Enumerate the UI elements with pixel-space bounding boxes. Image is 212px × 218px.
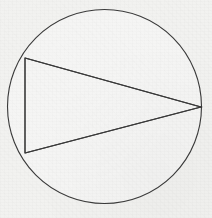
circumscribed-circle	[8, 10, 202, 204]
geometry-figure-canvas	[0, 0, 212, 218]
geometry-drawing	[0, 0, 212, 218]
